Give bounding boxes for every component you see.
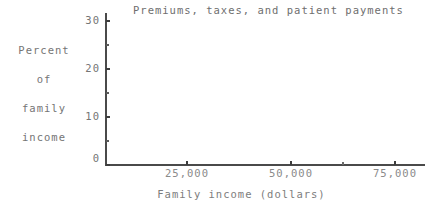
y-axis-tick-label: 0 <box>74 152 100 164</box>
x-axis-tick-label: 50,000 <box>269 167 313 179</box>
x-axis-tick-label: 75,000 <box>373 167 417 179</box>
plot-area <box>105 13 425 165</box>
x-axis-title: Family income (dollars) <box>0 188 435 200</box>
y-axis-tick-label: 30 <box>74 14 100 26</box>
y-axis-tick-label: 10 <box>74 110 100 122</box>
y-axis-title: Percent of family income <box>8 36 80 152</box>
y-axis-title-line: family <box>8 94 80 123</box>
y-axis-tick-major <box>106 68 110 70</box>
y-axis-tick-major <box>106 116 110 118</box>
x-axis-tick-major <box>186 161 188 165</box>
y-axis-tick-minor <box>106 44 109 46</box>
y-axis-tick-minor <box>106 140 109 142</box>
y-axis-tick-minor <box>106 92 109 94</box>
x-axis-tick-major <box>394 161 396 165</box>
x-axis-tick-label: 25,000 <box>165 167 209 179</box>
y-axis-title-line: income <box>8 123 80 152</box>
x-axis-tick-major <box>290 161 292 165</box>
y-axis-tick-label: 20 <box>74 62 100 74</box>
y-axis-title-line: Percent <box>8 36 80 65</box>
y-axis-tick-major <box>106 20 110 22</box>
y-axis-tick-major <box>106 164 110 166</box>
chart-figure: Premiums, taxes, and patient payments Pe… <box>0 0 435 206</box>
x-axis-tick-minor <box>342 162 344 165</box>
y-axis-title-line: of <box>8 65 80 94</box>
